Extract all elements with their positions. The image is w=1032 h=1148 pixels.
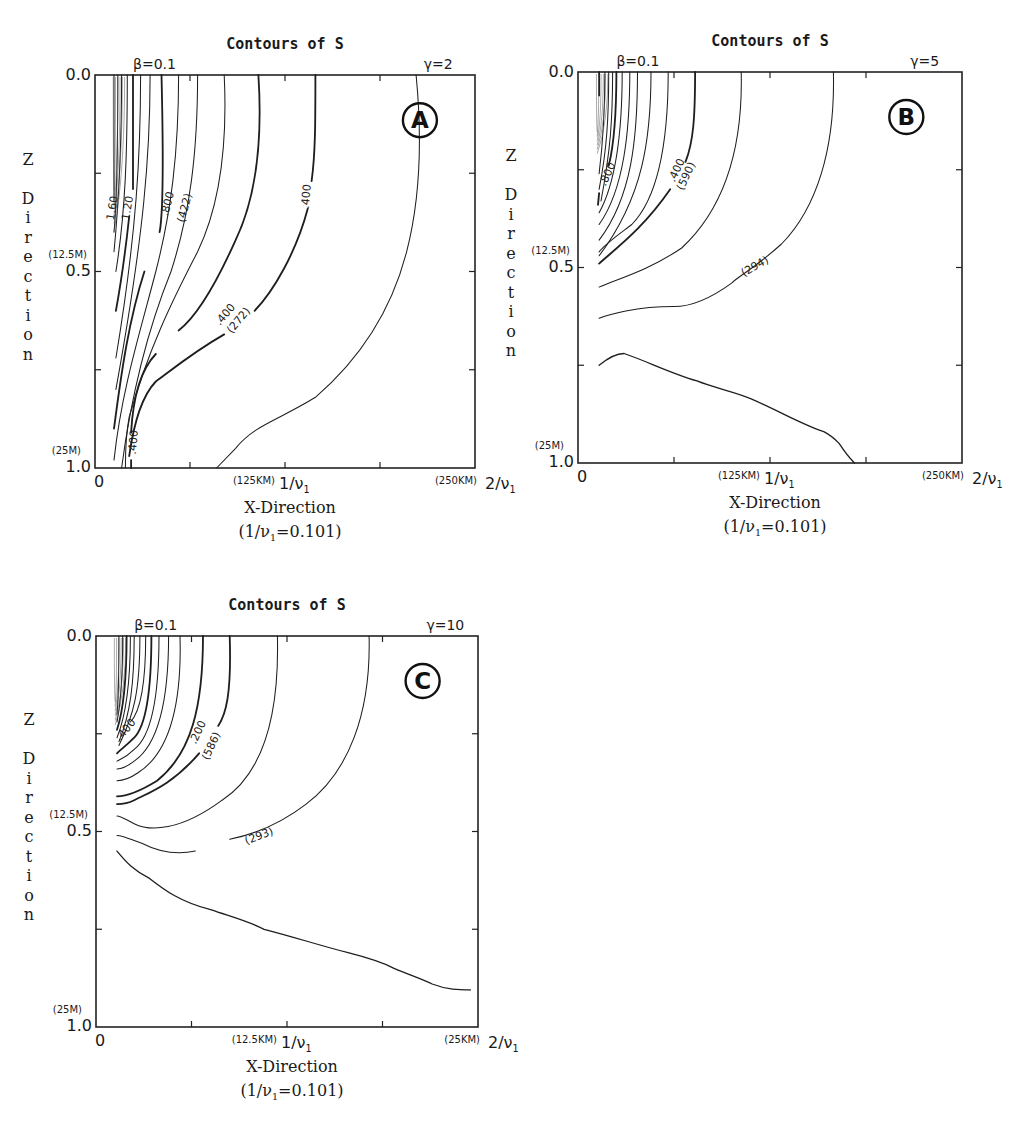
contour-lines <box>114 75 420 468</box>
contour-value-label: .800 <box>596 160 618 188</box>
y-tick-mid: 0.5 <box>67 823 92 839</box>
contour-plot-area: .400.200(586)(293)C <box>96 636 508 1037</box>
contour-line <box>598 72 616 205</box>
z-axis-letter: e <box>21 247 35 266</box>
axis-ticks <box>95 75 475 468</box>
y-tick-top: 0.0 <box>67 628 92 644</box>
contour-line <box>114 75 122 252</box>
x-axis-sublabel: (1/ν1=0.101) <box>240 1083 343 1102</box>
y-bottom-note: (25M) <box>53 1005 82 1015</box>
z-axis-letter: c <box>21 267 35 286</box>
x-axis-sublabel: (1/ν1=0.101) <box>723 519 826 538</box>
contour-line <box>129 75 315 456</box>
panel-c: .400.200(586)(293)C Contours of S β=0.1 … <box>0 0 1032 1148</box>
z-axis-letter: i <box>22 866 36 885</box>
contour-value-label: .400 <box>126 429 141 455</box>
z-axis-letter: D <box>504 185 518 204</box>
z-axis-letter: i <box>22 769 36 788</box>
contour-value-label: (293) <box>243 825 275 847</box>
x-axis-label: X-Direction <box>246 1059 338 1075</box>
dense-contour-region <box>114 638 125 725</box>
z-axis-letter: c <box>22 827 36 846</box>
contour-line <box>117 636 123 722</box>
contour-plot-area: .800.400(590)(294)B <box>578 72 992 473</box>
contour-plot-area: 1.601.20.800(422).400.400(272).400A <box>95 75 505 478</box>
y-mid-note: (12.5M) <box>49 810 88 820</box>
y-tick-bottom: 1.0 <box>66 459 91 475</box>
z-axis-letter: n <box>22 905 36 924</box>
dense-contour-region <box>113 77 124 232</box>
contour-value-label: (586) <box>199 730 223 762</box>
contour-line <box>117 636 169 769</box>
z-axis-letter: o <box>22 886 36 905</box>
x-tick-zero: 0 <box>94 474 104 490</box>
plot-frame <box>96 636 478 1027</box>
panel-badge-icon: B <box>889 100 923 134</box>
contour-line <box>599 354 854 464</box>
z-axis-letter: o <box>504 322 518 341</box>
contour-line <box>125 75 225 468</box>
contour-line <box>599 72 695 264</box>
contour-value-label: .400 <box>113 716 139 743</box>
z-axis-letter: o <box>21 325 35 344</box>
z-axis-letter: r <box>22 788 36 807</box>
plot-frame <box>578 72 962 463</box>
axis-ticks <box>578 72 962 463</box>
contour-value-label: (294) <box>739 253 771 279</box>
x-one-note: (125KM) <box>233 476 275 486</box>
z-axis-letter: e <box>22 808 36 827</box>
panel-a: 1.601.20.800(422).400.400(272).400A Cont… <box>0 0 1032 1148</box>
contour-line <box>114 75 118 232</box>
x-tick-two: 2/ν1 <box>485 476 516 495</box>
contour-line <box>599 72 622 213</box>
contour-line <box>117 636 151 753</box>
contour-line <box>117 636 278 828</box>
y-mid-note: (12.5M) <box>531 246 570 256</box>
contour-line <box>117 636 230 804</box>
contour-value-label: 1.20 <box>119 195 136 221</box>
contour-line <box>117 636 159 761</box>
svg-text:C: C <box>414 668 431 694</box>
z-axis-letter: t <box>22 847 36 866</box>
contour-lines <box>598 72 855 463</box>
x-tick-two: 2/ν1 <box>488 1035 519 1054</box>
z-axis-letter: Z <box>504 146 518 165</box>
y-bottom-note: (25M) <box>52 446 81 456</box>
contour-line <box>117 636 130 738</box>
svg-text:B: B <box>898 104 916 130</box>
dense-contour-region <box>596 74 608 154</box>
x-axis-sublabel: (1/ν1=0.101) <box>238 524 341 543</box>
x-two-note: (250KM) <box>922 471 964 481</box>
y-tick-top: 0.0 <box>66 67 91 83</box>
contour-line <box>131 75 260 468</box>
z-axis-letter: n <box>504 341 518 360</box>
svg-text:A: A <box>411 107 429 133</box>
z-axis-letter: e <box>504 244 518 263</box>
x-tick-one: 1/ν1 <box>764 471 795 490</box>
contour-line <box>217 75 420 468</box>
contour-value-label: .400 <box>212 301 238 328</box>
x-tick-zero: 0 <box>95 1033 105 1049</box>
contour-value-label: .400 <box>666 156 688 184</box>
z-axis-letter: i <box>504 302 518 321</box>
y-tick-mid: 0.5 <box>549 259 574 275</box>
beta-label: β=0.1 <box>134 618 177 632</box>
z-axis-letter: Z <box>21 150 35 169</box>
contour-line <box>599 72 668 252</box>
x-two-note: (25KM) <box>444 1035 480 1045</box>
contour-line <box>114 75 163 429</box>
x-one-note: (125KM) <box>718 471 760 481</box>
contour-value-label: .400 <box>299 184 314 210</box>
contour-line <box>599 72 630 225</box>
contour-line <box>601 72 613 201</box>
z-axis-letter: D <box>22 749 36 768</box>
contour-line <box>122 75 198 468</box>
axis-ticks <box>96 636 478 1027</box>
z-axis-letter: r <box>504 224 518 243</box>
z-axis-letter: r <box>21 228 35 247</box>
z-axis-letter: t <box>504 283 518 302</box>
contour-value-label: .200 <box>187 718 209 746</box>
contour-line <box>117 851 470 990</box>
x-tick-one: 1/ν1 <box>281 1035 312 1054</box>
contour-value-label: (590) <box>674 160 698 192</box>
